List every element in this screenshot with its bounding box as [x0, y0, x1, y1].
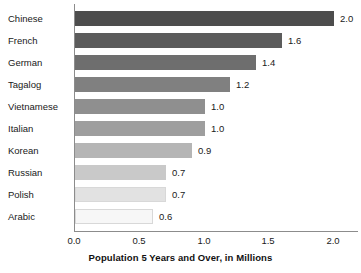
bar-chinese [75, 11, 334, 26]
bar-polish [75, 187, 166, 202]
category-axis-labels: Chinese French German Tagalog Vietnamese… [0, 0, 70, 232]
bar-value-italian: 1.0 [211, 122, 224, 135]
bar-arabic [75, 209, 153, 224]
bar-value-arabic: 0.6 [159, 210, 172, 223]
bar-value-vietnamese: 1.0 [211, 100, 224, 113]
x-axis-title: Population 5 Years and Over, in Millions [0, 252, 361, 263]
category-label-chinese: Chinese [0, 14, 64, 24]
bar-german [75, 55, 256, 70]
bar-value-tagalog: 1.2 [236, 78, 249, 91]
x-tick-0: 0.0 [67, 235, 80, 246]
category-label-french: French [0, 36, 64, 46]
x-tick-2: 1.0 [197, 235, 210, 246]
category-label-russian: Russian [0, 168, 64, 178]
category-label-italian: Italian [0, 124, 64, 134]
bar-tagalog [75, 77, 230, 92]
x-tick-1: 0.5 [132, 235, 145, 246]
bar-value-chinese: 2.0 [340, 12, 353, 25]
bar-value-polish: 0.7 [172, 188, 185, 201]
bar-value-russian: 0.7 [172, 166, 185, 179]
category-label-arabic: Arabic [0, 212, 64, 222]
category-label-vietnamese: Vietnamese [0, 102, 64, 112]
x-tick-3: 1.5 [261, 235, 274, 246]
plot-area: 2.0 1.6 1.4 1.2 1.0 1.0 0.9 0.7 [74, 0, 361, 232]
bar-vietnamese [75, 99, 205, 114]
x-axis-line [74, 231, 358, 232]
bar-italian [75, 121, 205, 136]
bar-russian [75, 165, 166, 180]
bar-value-korean: 0.9 [198, 144, 211, 157]
bar-french [75, 33, 282, 48]
x-tick-4: 2.0 [326, 235, 339, 246]
bar-korean [75, 143, 192, 158]
category-label-polish: Polish [0, 190, 64, 200]
category-label-german: German [0, 58, 64, 68]
horizontal-bar-chart: Chinese French German Tagalog Vietnamese… [0, 0, 361, 273]
bar-value-french: 1.6 [288, 34, 301, 47]
bar-value-german: 1.4 [262, 56, 275, 69]
category-label-korean: Korean [0, 146, 64, 156]
category-label-tagalog: Tagalog [0, 80, 64, 90]
